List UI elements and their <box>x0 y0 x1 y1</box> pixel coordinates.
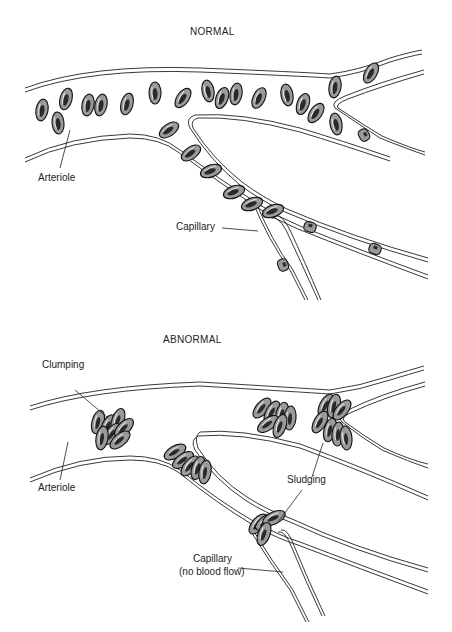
normal-diagram: NORMAL Arteriole Capillary <box>0 0 452 310</box>
abnormal-title: ABNORMAL <box>163 334 222 345</box>
sludging-label: Sludging <box>287 474 326 486</box>
upper-branch-wall <box>340 382 428 468</box>
clumping-cluster <box>89 407 137 453</box>
sludge-cluster-junction <box>309 392 355 451</box>
arteriole-leader-line <box>60 442 68 480</box>
capillary-label: Capillary <box>176 221 215 233</box>
clumping-label: Clumping <box>42 359 84 371</box>
upper-branch-wall <box>334 70 425 155</box>
capillary-no-flow-label: (no blood flow) <box>179 566 245 578</box>
sludge-cluster-capillary <box>246 507 288 547</box>
abnormal-diagram: ABNORMAL Clumping Arteriole Sludging Cap… <box>0 310 452 632</box>
capillary-leader-line <box>222 228 258 231</box>
middle-branch-wall <box>188 115 428 262</box>
arteriole-label: Arteriole <box>38 172 75 184</box>
arteriole-upper-wall <box>25 50 422 92</box>
arteriole-label: Arteriole <box>38 482 75 494</box>
sludge-cluster-branch <box>162 441 213 485</box>
normal-title: NORMAL <box>190 26 235 37</box>
capillary-label: Capillary <box>193 553 232 565</box>
arteriole-leader-line <box>60 130 70 168</box>
arteriole-lower-wall <box>25 134 428 279</box>
sludge-cluster-upper-mid <box>250 395 297 439</box>
arteriole-upper-wall <box>30 366 424 410</box>
normal-vessel-drawing <box>0 0 452 310</box>
red-blood-cells <box>34 60 382 272</box>
